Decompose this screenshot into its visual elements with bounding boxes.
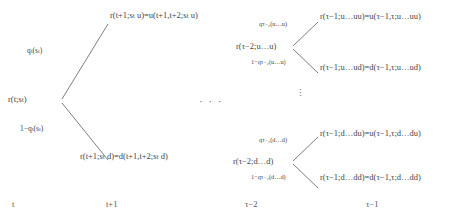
edge-left-up (62, 24, 108, 99)
leaf-label-left-up: r(t+1;sₜ u)=u(t+1,t+2;sₜ u) (110, 11, 198, 20)
leaf-label-right-lower-down: r(τ−1;d…dd)=d(τ−1,τ;d…dd) (320, 173, 421, 182)
tree-edges (0, 0, 451, 217)
diagram-canvas: r(t+1;sₜ u)=u(t+1,t+2;sₜ u) qₜ(sₜ) r(t;s… (0, 0, 451, 217)
ellipsis-vertical: ⋮ (296, 92, 305, 95)
probability-label-right-lower-up: qτ₋₂(d…d) (259, 137, 287, 143)
node-label-right-lower-root: r(τ−2;d…d) (233, 157, 273, 166)
leaf-label-right-upper-down: r(τ−1;u…ud)=d(τ−1,τ;u…ud) (320, 63, 421, 72)
axis-tick-t: t (12, 200, 14, 209)
leaf-label-left-down: r(t+1;sₜ d)=d(t+1,t+2;sₜ d) (80, 152, 168, 161)
leaf-label-right-lower-up: r(τ−1;d…du)=u(τ−1,τ;d…du) (320, 129, 421, 138)
edge-right-lower-up (293, 137, 318, 161)
axis-tick-tau-minus-2: τ−2 (245, 200, 257, 209)
node-label-right-upper-root: r(τ−2;u…u) (236, 42, 276, 51)
ellipsis-horizontal: · · · (199, 96, 223, 107)
axis-tick-tau-minus-1: τ−1 (366, 200, 378, 209)
edge-right-lower-down (293, 164, 318, 188)
node-label-left-root: r(t;sₜ) (8, 95, 27, 104)
probability-label-right-upper-down: 1−qτ₋₂(u…u) (251, 59, 286, 65)
probability-label-right-upper-up: qτ₋₂(u…u) (259, 21, 287, 27)
probability-label-left-up: qₜ(sₜ) (27, 47, 42, 55)
edge-right-upper-down (293, 49, 318, 73)
probability-label-right-lower-down: 1−qτ₋₂(d…d) (251, 174, 286, 180)
probability-label-left-down: 1−qₜ(sₜ) (20, 125, 43, 133)
axis-tick-t-plus-1: t+1 (106, 200, 117, 209)
edge-right-upper-up (293, 22, 318, 46)
leaf-label-right-upper-up: r(τ−1;u…uu)=u(τ−1,τ;u…uu) (320, 12, 421, 21)
